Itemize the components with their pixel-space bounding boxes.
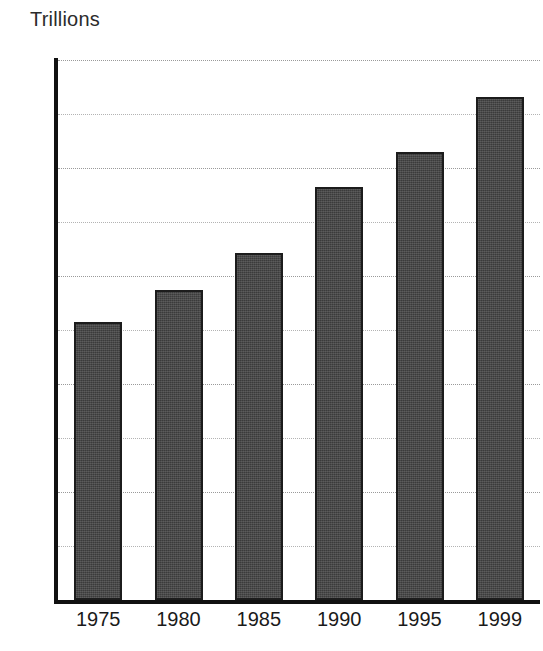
plot-area: 543210 bbox=[58, 60, 540, 600]
bar bbox=[315, 187, 363, 600]
bar bbox=[155, 290, 203, 600]
x-axis-tick-labels: 197519801985199019951999 bbox=[58, 608, 540, 648]
x-axis-tick-label: 1999 bbox=[478, 608, 523, 631]
x-axis-tick-label: 1995 bbox=[397, 608, 442, 631]
x-axis-tick-label: 1975 bbox=[76, 608, 121, 631]
bar bbox=[74, 322, 122, 600]
chart-unit-title: Trillions bbox=[30, 8, 100, 31]
x-axis-line bbox=[54, 600, 540, 604]
bar-chart-figure: Trillions 543210 19751980198519901995199… bbox=[0, 0, 543, 651]
bars-layer bbox=[58, 60, 540, 600]
bar bbox=[235, 253, 283, 600]
bar bbox=[396, 152, 444, 600]
bar bbox=[476, 97, 524, 600]
x-axis-tick-label: 1990 bbox=[317, 608, 362, 631]
x-axis-tick-label: 1980 bbox=[156, 608, 201, 631]
x-axis-tick-label: 1985 bbox=[237, 608, 282, 631]
